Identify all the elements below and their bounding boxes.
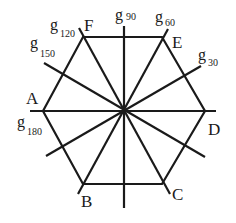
axis-label-subscript: 150 xyxy=(40,48,55,59)
symmetry-axes xyxy=(30,26,216,208)
vertex-label-E: E xyxy=(172,33,182,52)
axis-label-subscript: 30 xyxy=(208,57,218,68)
axis-label-g180: g180 xyxy=(17,113,42,137)
axis-label-g30: g30 xyxy=(198,46,218,68)
axis-label-g120: g120 xyxy=(50,16,75,39)
axis-label-letter: g xyxy=(30,34,38,52)
axis-label-subscript: 60 xyxy=(165,17,175,28)
vertex-label-D: D xyxy=(208,120,220,139)
vertex-label-B: B xyxy=(81,192,92,211)
hexagon-symmetry-diagram: ABCDEF g30g60g90g120g150g180 xyxy=(0,0,236,223)
vertex-label-F: F xyxy=(84,16,93,35)
axis-label-letter: g xyxy=(155,8,163,26)
axis-label-letter: g xyxy=(198,46,206,64)
axis-label-letter: g xyxy=(17,113,25,131)
axis-label-letter: g xyxy=(115,6,123,24)
axis-label-subscript: 120 xyxy=(60,28,75,39)
vertex-label-C: C xyxy=(172,185,183,204)
axis-label-subscript: 90 xyxy=(126,11,136,22)
axis-label-g150: g150 xyxy=(30,34,55,59)
axis-label-letter: g xyxy=(50,16,58,34)
vertex-label-A: A xyxy=(26,89,39,108)
axis-label-g90: g90 xyxy=(115,6,136,24)
axis-label-subscript: 180 xyxy=(27,126,42,137)
axis-label-g60: g60 xyxy=(155,8,175,28)
